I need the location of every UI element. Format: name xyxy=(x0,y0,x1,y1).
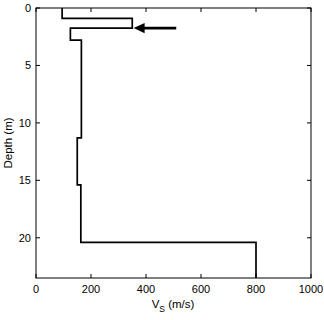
low-velocity-layer-arrow xyxy=(134,23,177,33)
x-tick-label: 800 xyxy=(247,283,265,295)
x-axis-tick-labels: 02004006008001000 xyxy=(33,283,323,295)
y-axis-tick-labels: 05101520 xyxy=(19,2,31,244)
arrow-head xyxy=(134,23,145,33)
x-axis-label: VS (m/s) xyxy=(152,298,195,314)
y-tick-label: 0 xyxy=(25,2,31,14)
y-axis-label: Depth (m) xyxy=(2,117,14,168)
y-tick-label: 20 xyxy=(19,232,31,244)
x-tick-label: 0 xyxy=(33,283,39,295)
y-tick-label: 10 xyxy=(19,117,31,129)
x-axis-label-unit: (m/s) xyxy=(165,298,195,310)
y-tick-label: 5 xyxy=(25,59,31,71)
velocity-profile-chart: 02004006008001000 05101520 VS (m/s) Dept… xyxy=(0,0,324,320)
x-tick-label: 200 xyxy=(82,283,100,295)
x-tick-label: 400 xyxy=(137,283,155,295)
x-tick-label: 600 xyxy=(192,283,210,295)
vs-profile-line xyxy=(62,8,256,278)
y-axis-ticks xyxy=(36,8,311,238)
y-tick-label: 15 xyxy=(19,174,31,186)
x-tick-label: 1000 xyxy=(299,283,323,295)
figure-container: 02004006008001000 05101520 VS (m/s) Dept… xyxy=(0,0,324,320)
